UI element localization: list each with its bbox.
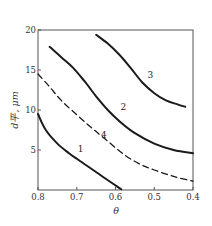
curve-4 [38, 74, 193, 181]
curve-2 [50, 47, 193, 153]
y-tick-label: 5 [31, 145, 36, 155]
x-tick-label: 0.6 [109, 192, 123, 202]
x-tick-label: 0.4 [186, 192, 200, 202]
x-tick-label: 0.8 [31, 192, 45, 202]
curve-label-1: 1 [78, 144, 84, 154]
curve-3 [96, 35, 185, 107]
y-axis-title: d平, μm [9, 91, 20, 128]
curve-label-4: 4 [101, 130, 107, 140]
y-tick-label: 10 [25, 105, 36, 115]
x-axis-title: θ [113, 205, 119, 216]
plot-frame [38, 30, 193, 190]
y-tick-label: 15 [25, 65, 36, 75]
y-tick-label: 20 [25, 25, 36, 35]
plot-border [38, 30, 193, 190]
curve-label-2: 2 [120, 102, 126, 112]
curve-label-3: 3 [148, 70, 154, 80]
chart: 0.80.70.60.50.45101520 1234 θ d平, μm [0, 0, 212, 226]
x-tick-label: 0.7 [70, 192, 84, 202]
x-tick-label: 0.5 [147, 192, 161, 202]
data-series [38, 35, 193, 189]
